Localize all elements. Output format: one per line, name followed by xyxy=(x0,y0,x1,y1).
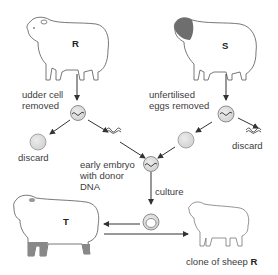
clone-label: clone of sheep R xyxy=(186,256,257,267)
empty-egg-cell xyxy=(178,132,194,148)
discard-left-label: discard xyxy=(18,152,49,163)
diagram-canvas xyxy=(0,0,278,275)
sheep-s-illustration xyxy=(174,18,256,80)
sheep-t-illustration xyxy=(14,195,99,256)
sheep-s-label: S xyxy=(222,40,228,51)
donor-dna-strand xyxy=(106,128,121,134)
udder-cell-label: udder cell removed xyxy=(22,89,63,111)
sheep-r-illustration xyxy=(27,17,109,80)
udder-cell xyxy=(71,106,86,121)
discard-right-label: discard xyxy=(232,140,263,151)
discard-cell-left xyxy=(30,134,46,150)
early-embryo-label: early embryo with donor DNA xyxy=(80,159,135,192)
blastocyst-cell xyxy=(143,214,159,230)
egg-dna-strand xyxy=(246,128,261,134)
culture-label: culture xyxy=(155,186,184,197)
early-embryo-cell xyxy=(144,157,159,172)
sheep-r-label: R xyxy=(72,38,79,49)
egg-cell xyxy=(218,106,234,122)
sheep-t-label: T xyxy=(63,216,69,227)
unfertilised-eggs-label: unfertilised eggs removed xyxy=(149,89,209,111)
sheep-clone-illustration xyxy=(189,202,249,246)
